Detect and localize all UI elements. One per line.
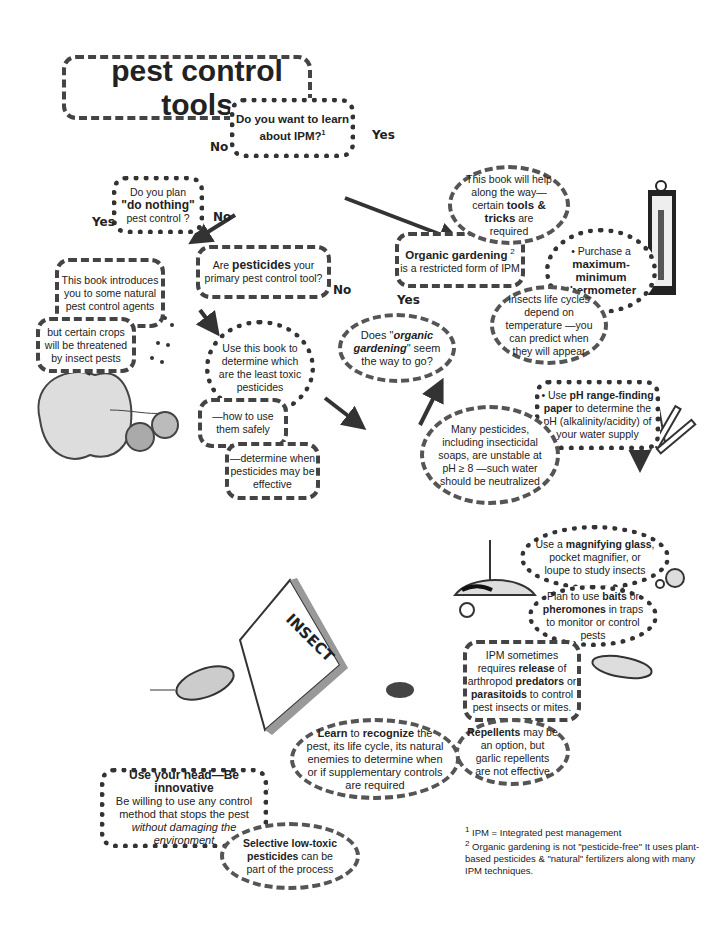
when-effective-node: —determine when pesticides may be effect…	[225, 442, 320, 500]
organic-question-text: Does "organic gardening" seem the way to…	[352, 329, 442, 368]
ph-paper-text: • Use pH range-finding paper to determin…	[540, 389, 655, 441]
organic-restricted-text: is a restricted form of IPM	[400, 262, 520, 275]
organic-restricted-title: Organic gardening 2	[405, 245, 515, 262]
natural-agents-text: This book introduces you to some natural…	[59, 274, 161, 313]
predators-node: IPM sometimes requires release of arthro…	[463, 640, 581, 722]
predators-text: IPM sometimes requires release of arthro…	[467, 649, 577, 714]
label-no: No	[213, 210, 231, 224]
pesticides-primary-node: Are pesticides your primary pest control…	[196, 245, 331, 299]
organic-question-node: Does "organic gardening" seem the way to…	[338, 313, 456, 383]
pesticides-primary-text: Are pesticides your primary pest control…	[200, 259, 327, 285]
ipm-question-text: Do you want to learn about IPM?1	[235, 113, 350, 143]
label-yes: Yes	[372, 128, 395, 142]
magnifying-node: Use a magnifying glass, pocket magnifier…	[520, 525, 670, 590]
tools-tricks-text: This book will help along the way— certa…	[464, 173, 554, 238]
tools-tricks-node: This book will help along the way— certa…	[448, 165, 570, 245]
small-roach-illustration	[386, 682, 414, 698]
label-no: No	[210, 140, 228, 154]
repellents-text: Repellents may be an option, but garlic …	[467, 726, 558, 778]
do-nothing-bold: "do nothing"	[121, 199, 194, 212]
unstable-ph-node: Many pesticides, including insecticidal …	[420, 405, 560, 505]
least-toxic-text: Use this book to determine which are the…	[218, 342, 302, 394]
when-effective-text: —determine when pesticides may be effect…	[229, 452, 316, 491]
use-safely-text: —how to use them safely	[202, 410, 284, 436]
label-yes: Yes	[397, 293, 420, 307]
low-toxic-text: Selective low-toxic pesticides can be pa…	[238, 837, 342, 876]
low-toxic-node: Selective low-toxic pesticides can be pa…	[220, 822, 360, 890]
label-no: No	[333, 283, 351, 297]
label-yes: Yes	[92, 215, 115, 229]
ipm-question-node: Do you want to learn about IPM?1	[230, 98, 355, 158]
baits-text: Plan to use baits or pheromones in traps…	[541, 590, 645, 642]
do-nothing-node: Do you plan "do nothing" pest control ?	[112, 176, 204, 234]
repellents-node: Repellents may be an option, but garlic …	[455, 718, 570, 786]
use-safely-node: —how to use them safely	[198, 398, 288, 448]
life-cycles-text: Insects life cycles depend on temperatur…	[504, 293, 594, 358]
recognize-node: Learn to recognize the pest, its life cy…	[290, 718, 460, 800]
insect-book-illustration: INSECT	[240, 578, 348, 735]
use-head-title: Use your head—Be innovative	[105, 769, 263, 795]
crops-threatened-node: but certain crops will be threatened by …	[36, 317, 136, 373]
magnifying-text: Use a magnifying glass, pocket magnifier…	[535, 538, 655, 577]
unstable-ph-text: Many pesticides, including insecticidal …	[436, 423, 544, 488]
lacewing-illustration	[591, 652, 654, 682]
do-nothing-line3: pest control ?	[126, 212, 189, 225]
footnote-2: 2 Organic gardening is not "pesticide-fr…	[465, 838, 705, 877]
baits-node: Plan to use baits or pheromones in traps…	[528, 585, 658, 647]
crops-threatened-text: but certain crops will be threatened by …	[40, 326, 132, 365]
do-nothing-line1: Do you plan	[130, 186, 186, 199]
thermometer-pre: • Purchase a	[571, 245, 631, 258]
footnote-1: 1 IPM = Integrated pest management	[465, 824, 710, 839]
recognize-text: Learn to recognize the pest, its life cy…	[306, 727, 444, 792]
cockroach-illustration	[150, 660, 238, 707]
life-cycles-node: Insects life cycles depend on temperatur…	[490, 285, 608, 365]
